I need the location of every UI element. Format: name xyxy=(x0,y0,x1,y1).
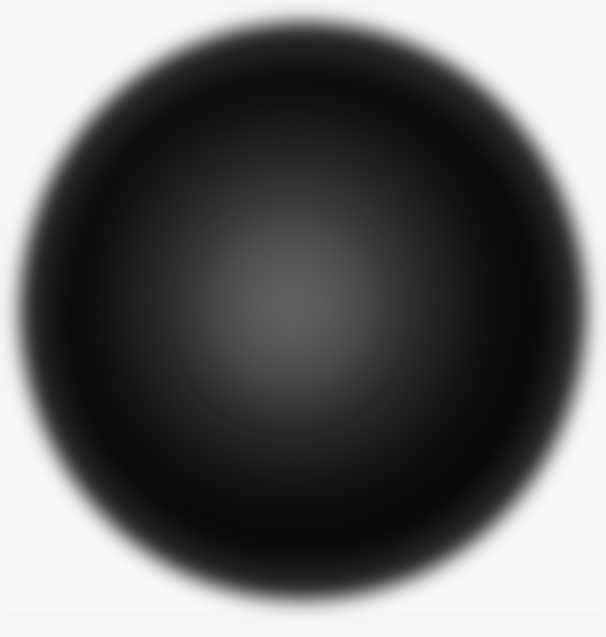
sphere-light-core xyxy=(205,225,375,400)
artwork-canvas xyxy=(0,0,606,637)
